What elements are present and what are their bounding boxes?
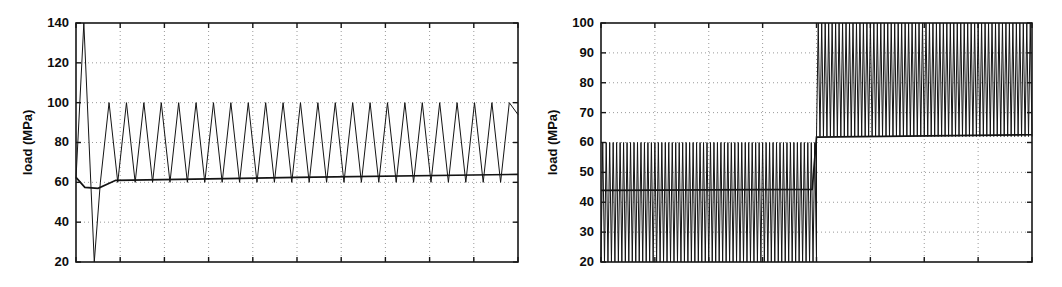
y-tick-label: 40	[55, 214, 69, 229]
y-axis-title: load (MPa)	[20, 110, 35, 176]
y-tick-label: 140	[47, 15, 69, 30]
y-tick-label: 60	[55, 174, 69, 189]
chart-panel-left: 20406080100120140load (MPa)	[0, 0, 531, 287]
chart-svg-left: 20406080100120140load (MPa)	[0, 0, 531, 287]
y-tick-label: 20	[55, 254, 69, 269]
series-line-mean-load	[76, 174, 518, 188]
y-tick-label: 100	[47, 95, 69, 110]
y-tick-label: 80	[55, 134, 69, 149]
y-tick-label: 100	[572, 15, 594, 30]
y-tick-label: 60	[580, 134, 594, 149]
y-tick-label: 80	[580, 75, 594, 90]
y-tick-labels: 2030405060708090100	[572, 15, 594, 269]
y-tick-label: 120	[47, 55, 69, 70]
chart-panel-right: 2030405060708090100load (MPa)	[531, 0, 1062, 287]
figure-container: 20406080100120140load (MPa) 203040506070…	[0, 0, 1062, 287]
y-tick-labels: 20406080100120140	[47, 15, 69, 269]
data-series-group	[601, 23, 1032, 262]
grid-lines	[76, 23, 518, 262]
y-tick-label: 50	[580, 164, 594, 179]
y-axis-title: load (MPa)	[545, 110, 560, 176]
chart-svg-right: 2030405060708090100load (MPa)	[531, 0, 1062, 287]
y-tick-label: 70	[580, 105, 594, 120]
y-tick-label: 90	[580, 45, 594, 60]
y-tick-label: 30	[580, 224, 594, 239]
y-tick-label: 40	[580, 194, 594, 209]
y-tick-label: 20	[580, 254, 594, 269]
